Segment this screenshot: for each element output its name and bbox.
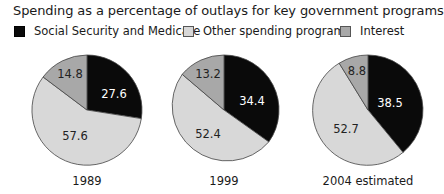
slice-label-ss: 38.5 (377, 96, 403, 110)
slice-label-ss: 34.4 (239, 94, 265, 108)
slice-label-ss: 27.6 (101, 87, 127, 101)
pie-caption-1999: 1999 (204, 174, 244, 188)
slice-label-other: 52.7 (333, 122, 359, 136)
pie-2004-estimated: 38.5 52.7 8.8 (313, 55, 423, 165)
slice-label-interest: 13.2 (195, 67, 221, 81)
slice-label-interest: 14.8 (57, 67, 83, 81)
pie-1999: 34.4 52.4 13.2 (172, 55, 279, 161)
slice-label-interest: 8.8 (348, 64, 366, 78)
slice-label-other: 52.4 (195, 127, 221, 141)
pie-caption-1989: 1989 (67, 174, 107, 188)
slice-label-other: 57.6 (62, 129, 88, 143)
pie-1989: 27.6 57.6 14.8 (32, 55, 142, 165)
pie-caption-2004: 2004 estimated (318, 174, 418, 188)
